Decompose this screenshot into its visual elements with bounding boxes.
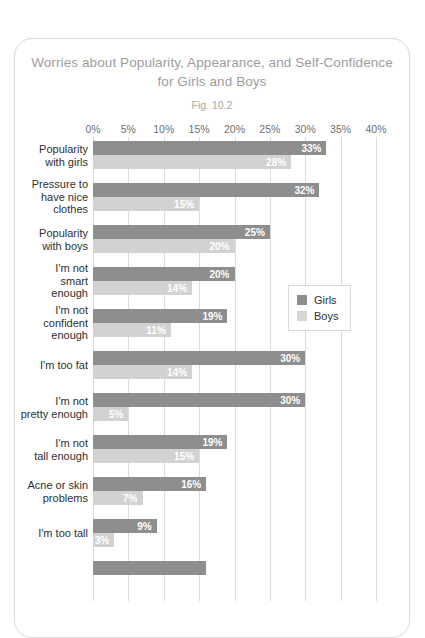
figure-label: Fig. 10.2 (15, 99, 409, 111)
chart-title-line-2: for Girls and Boys (15, 72, 409, 91)
chart-card: Worries about Popularity, Appearance, an… (14, 38, 410, 638)
chart-title-block: Worries about Popularity, Appearance, an… (15, 39, 409, 111)
chart-title-line-1: Worries about Popularity, Appearance, an… (15, 53, 409, 72)
